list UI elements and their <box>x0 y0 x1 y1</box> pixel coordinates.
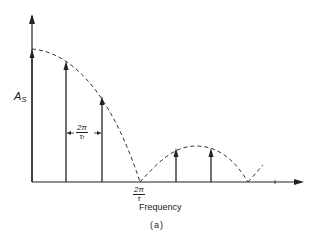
sinc-envelope-main-lobe <box>32 49 140 182</box>
sinc-envelope-tail <box>248 165 263 182</box>
x-axis-arrow-icon <box>294 179 304 185</box>
arrow-up-icon <box>174 148 179 157</box>
spectrum-diagram <box>0 0 322 236</box>
arrow-up-icon <box>30 49 35 58</box>
y-axis-label-subscript: S <box>21 95 26 104</box>
arrow-right-icon <box>97 131 101 135</box>
spacing-label: 2π τr <box>76 124 88 141</box>
spectral-lines <box>30 49 214 182</box>
arrow-left-icon <box>67 131 71 135</box>
zero-crossing-label: 2π τ <box>133 186 145 203</box>
figure-caption: (a) <box>150 220 164 230</box>
sinc-envelope-side-lobe <box>140 146 248 182</box>
y-axis-label: AS <box>14 90 27 104</box>
y-axis-arrow-icon <box>29 14 35 24</box>
x-axis-label: Frequency <box>139 202 182 212</box>
spacing-label-subscript: r <box>82 134 84 140</box>
